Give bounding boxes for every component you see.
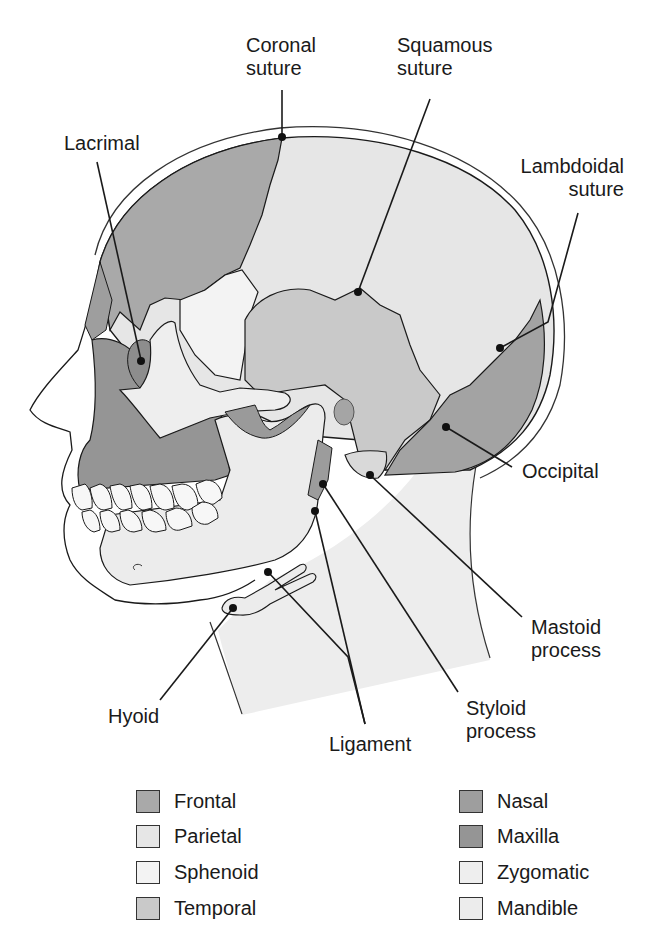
label-squamous-suture: Squamous suture: [397, 34, 493, 80]
label-coronal-suture: Coronal suture: [246, 34, 316, 80]
ear-canal: [334, 399, 354, 425]
skull-diagram: Coronal suture Squamous suture Lacrimal …: [0, 0, 655, 934]
legend-label: Nasal: [497, 790, 548, 813]
legend-label: Frontal: [174, 790, 236, 813]
legend-swatch: [136, 790, 160, 813]
legend-swatch: [459, 861, 483, 884]
legend-label: Parietal: [174, 825, 242, 848]
legend-item-frontal: Frontal: [136, 789, 236, 813]
legend-item-nasal: Nasal: [459, 789, 548, 813]
mastoid-process: [345, 451, 387, 479]
legend-label: Mandible: [497, 897, 578, 920]
label-occipital: Occipital: [522, 460, 599, 483]
legend-item-zygomatic: Zygomatic: [459, 860, 589, 884]
legend-swatch: [136, 897, 160, 920]
legend-swatch: [136, 861, 160, 884]
legend-swatch: [459, 790, 483, 813]
legend-swatch: [459, 825, 483, 848]
label-styloid-process: Styloid process: [466, 697, 536, 743]
legend-label: Maxilla: [497, 825, 559, 848]
label-hyoid: Hyoid: [108, 705, 159, 728]
legend-swatch: [136, 825, 160, 848]
legend-item-maxilla: Maxilla: [459, 824, 559, 848]
legend-item-temporal: Temporal: [136, 896, 256, 920]
legend-item-mandible: Mandible: [459, 896, 578, 920]
leader-hyoid: [160, 608, 233, 700]
legend-swatch: [459, 897, 483, 920]
legend-item-parietal: Parietal: [136, 824, 242, 848]
label-lambdoidal-suture: Lambdoidal suture: [494, 155, 624, 201]
label-ligament: Ligament: [329, 733, 411, 756]
label-mastoid-process: Mastoid process: [531, 616, 601, 662]
legend-item-sphenoid: Sphenoid: [136, 860, 259, 884]
legend-label: Sphenoid: [174, 861, 259, 884]
legend-label: Zygomatic: [497, 861, 589, 884]
label-lacrimal: Lacrimal: [64, 132, 140, 155]
legend-label: Temporal: [174, 897, 256, 920]
